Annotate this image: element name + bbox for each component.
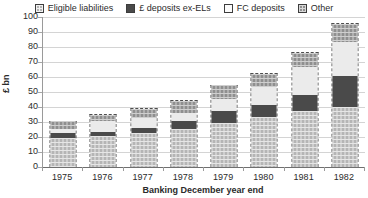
bar-series-group	[43, 17, 365, 167]
bar-slot	[43, 17, 83, 167]
legend-swatch-icon-other	[298, 4, 307, 13]
legend-label-fc-deposits: FC deposits	[237, 4, 285, 13]
legend-label-gbp-deposits: £ deposits ex-ELs	[139, 4, 211, 13]
bar-segment-other	[332, 24, 357, 42]
stacked-bar[interactable]	[211, 85, 238, 168]
chart-legend: Eligible liabilities £ deposits ex-ELs F…	[0, 0, 368, 17]
stacked-bar[interactable]	[50, 121, 77, 168]
legend-item-fc-deposits: FC deposits	[224, 4, 285, 13]
x-axis-tick-mark	[364, 167, 365, 171]
bar-segment-gbp	[252, 105, 277, 117]
stacked-bar-chart: Eligible liabilities £ deposits ex-ELs F…	[0, 0, 368, 198]
x-axis-tick-mark	[42, 167, 43, 171]
bar-segment-fc	[171, 113, 196, 121]
x-axis-tick-mark	[203, 167, 204, 171]
x-axis-tick-labels: 19751976197719781979198019811982	[42, 172, 364, 182]
bar-segment-el	[332, 107, 357, 167]
bar-segment-el	[91, 136, 116, 167]
bar-segment-fc	[292, 67, 317, 95]
y-axis-tick-label: 0	[12, 162, 38, 171]
x-axis-tick-label: 1981	[284, 172, 324, 182]
y-axis-tick-label: 60	[12, 72, 38, 81]
stacked-bar[interactable]	[130, 108, 157, 167]
x-axis-tick-marks	[42, 167, 364, 168]
bar-segment-other	[171, 101, 196, 113]
bar-segment-el	[51, 138, 76, 167]
bar-slot	[325, 17, 365, 167]
y-axis-tick-label: 10	[12, 147, 38, 156]
bar-segment-other	[131, 109, 156, 119]
bar-slot	[164, 17, 204, 167]
x-axis-tick-mark	[284, 167, 285, 171]
x-axis-tick-label: 1977	[123, 172, 163, 182]
bar-segment-other	[252, 74, 277, 87]
bar-segment-gbp	[171, 121, 196, 128]
y-axis-tick-label: 100	[12, 12, 38, 21]
x-axis-tick-label: 1980	[243, 172, 283, 182]
x-axis-tick-label: 1976	[82, 172, 122, 182]
legend-item-other: Other	[298, 4, 334, 13]
x-axis-tick-mark	[243, 167, 244, 171]
bar-segment-fc	[91, 121, 116, 131]
plot-area: £ bn 1009080706050403020100 197519761977…	[0, 17, 368, 198]
x-axis-tick-mark	[123, 167, 124, 171]
legend-swatch-icon-gbp-deposits	[126, 4, 135, 13]
bar-segment-el	[292, 111, 317, 168]
x-axis-tick-mark	[163, 167, 164, 171]
bar-slot	[124, 17, 164, 167]
y-axis-tick-label: 50	[12, 87, 38, 96]
bar-segment-other	[51, 121, 76, 128]
bar-slot	[285, 17, 325, 167]
bar-segment-el	[212, 123, 237, 167]
legend-item-gbp-deposits: £ deposits ex-ELs	[126, 4, 211, 13]
y-axis-tick-label: 30	[12, 117, 38, 126]
stacked-bar[interactable]	[90, 114, 117, 167]
legend-label-eligible-liabilities: Eligible liabilities	[48, 4, 114, 13]
x-axis-tick-mark	[82, 167, 83, 171]
stacked-bar[interactable]	[331, 23, 358, 167]
bar-segment-el	[171, 129, 196, 167]
bar-segment-el	[252, 117, 277, 167]
bar-segment-other	[212, 85, 237, 98]
bar-segment-other	[292, 53, 317, 68]
bar-segment-gbp	[292, 95, 317, 111]
y-axis-tick-label: 80	[12, 42, 38, 51]
plot-canvas	[42, 17, 365, 168]
stacked-bar[interactable]	[170, 100, 197, 167]
x-axis-tick-label: 1979	[203, 172, 243, 182]
bar-segment-gbp	[332, 76, 357, 107]
stacked-bar[interactable]	[291, 52, 318, 168]
bar-segment-other	[91, 115, 116, 122]
x-axis-tick-mark	[324, 167, 325, 171]
x-axis-tick-label: 1982	[324, 172, 364, 182]
stacked-bar[interactable]	[251, 73, 278, 168]
y-axis-tick-label: 90	[12, 27, 38, 36]
legend-item-eligible-liabilities: Eligible liabilities	[35, 4, 114, 13]
bar-segment-fc	[131, 118, 156, 128]
y-axis-tick-label: 40	[12, 102, 38, 111]
x-axis-tick-label: 1978	[163, 172, 203, 182]
bar-segment-gbp	[212, 111, 237, 124]
bar-slot	[204, 17, 244, 167]
y-axis-tick-labels: 1009080706050403020100	[10, 17, 38, 198]
bar-slot	[244, 17, 284, 167]
x-axis-title: Banking December year end	[42, 185, 364, 195]
x-axis-tick-label: 1975	[42, 172, 82, 182]
y-axis-tick-label: 70	[12, 57, 38, 66]
bar-segment-fc	[212, 99, 237, 111]
y-axis-tick-label: 20	[12, 132, 38, 141]
bar-slot	[83, 17, 123, 167]
bar-segment-fc	[252, 87, 277, 105]
legend-label-other: Other	[311, 4, 334, 13]
bar-segment-fc	[332, 42, 357, 76]
legend-swatch-icon-fc-deposits	[224, 4, 233, 13]
bar-segment-el	[131, 133, 156, 167]
